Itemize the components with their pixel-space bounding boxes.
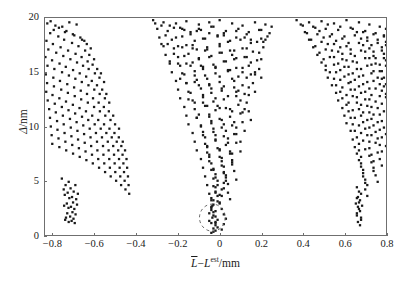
scatter-point <box>204 105 206 107</box>
scatter-point <box>216 226 218 228</box>
scatter-point <box>114 123 116 125</box>
scatter-point <box>210 169 212 171</box>
scatter-point <box>316 54 318 56</box>
scatter-point <box>335 71 337 73</box>
scatter-point <box>200 87 202 89</box>
scatter-point <box>377 137 379 139</box>
scatter-point <box>169 60 171 62</box>
scatter-point <box>85 75 87 77</box>
scatter-point <box>177 45 179 47</box>
scatter-point <box>56 120 58 122</box>
scatter-point <box>225 176 227 178</box>
scatter-point <box>339 26 341 28</box>
scatter-point <box>59 46 61 48</box>
scatter-point <box>202 134 204 136</box>
scatter-point <box>308 21 310 23</box>
scatter-point <box>198 23 200 25</box>
scatter-point <box>229 198 231 200</box>
scatter-point <box>350 88 352 90</box>
scatter-point <box>62 55 64 57</box>
scatter-point <box>91 115 93 117</box>
scatter-point <box>381 46 383 48</box>
scatter-point <box>121 154 123 156</box>
scatter-point <box>202 66 204 68</box>
scatter-point <box>51 134 53 136</box>
scatter-point <box>91 80 93 82</box>
scatter-point <box>231 159 233 161</box>
scatter-point <box>243 36 245 38</box>
scatter-point <box>124 149 126 151</box>
scatter-point <box>241 111 243 113</box>
scatter-point <box>374 32 376 34</box>
scatter-point <box>221 188 223 190</box>
scatter-point <box>370 72 372 74</box>
scatter-point <box>214 97 216 99</box>
scatter-point <box>383 110 385 112</box>
scatter-point <box>246 56 248 58</box>
scatter-point <box>164 34 166 36</box>
scatter-series-center-cone <box>152 19 273 234</box>
scatter-point <box>204 143 206 145</box>
scatter-point <box>362 172 364 174</box>
scatter-point <box>233 133 235 135</box>
scatter-point <box>63 205 65 207</box>
scatter-point <box>233 170 235 172</box>
scatter-point <box>362 111 364 113</box>
scatter-point <box>356 96 358 98</box>
scatter-point <box>248 94 250 96</box>
scatter-point <box>246 101 248 103</box>
scatter-point <box>177 56 179 58</box>
scatter-point <box>191 61 193 63</box>
scatter-point <box>225 60 227 62</box>
scatter-point <box>112 115 114 117</box>
scatter-point <box>210 122 212 124</box>
scatter-point <box>67 192 69 194</box>
scatter-point <box>45 56 47 58</box>
scatter-point <box>385 65 386 67</box>
scatter-point <box>350 117 352 119</box>
scatter-point <box>260 37 262 39</box>
scatter-point <box>379 144 381 146</box>
scatter-point <box>200 124 202 126</box>
scatter-point <box>329 56 331 58</box>
scatter-point <box>385 41 386 43</box>
scatter-point <box>231 54 233 56</box>
scatter-point <box>347 42 349 44</box>
scatter-point <box>206 46 208 48</box>
scatter-point <box>374 62 376 64</box>
scatter-point <box>368 57 370 59</box>
scatter-point <box>231 110 233 112</box>
scatter-point <box>358 190 360 192</box>
scatter-point <box>214 173 216 175</box>
scatter-point <box>200 158 202 160</box>
scatter-point <box>214 186 216 188</box>
scatter-point <box>167 43 169 45</box>
scatter-point <box>381 103 383 105</box>
scatter-point <box>235 133 237 135</box>
scatter-point <box>361 205 363 207</box>
scatter-point <box>385 145 386 147</box>
scatter-point <box>355 202 357 204</box>
scatter-point <box>189 92 191 94</box>
scatter-point <box>61 177 63 179</box>
scatter-point <box>227 41 229 43</box>
scatter-point <box>212 199 214 201</box>
scatter-point <box>63 39 65 41</box>
scatter-point <box>360 162 362 164</box>
scatter-point <box>229 150 231 152</box>
x-tick-label: 0.8 <box>380 238 393 249</box>
scatter-point <box>169 24 171 26</box>
scatter-point <box>306 32 308 34</box>
scatter-point <box>118 158 120 160</box>
scatter-point <box>383 53 385 55</box>
scatter-point <box>243 130 245 132</box>
scatter-point <box>327 43 329 45</box>
scatter-point <box>372 80 374 82</box>
scatter-point <box>185 82 187 84</box>
scatter-point <box>260 77 262 79</box>
scatter-point <box>154 22 156 24</box>
scatter-point <box>214 109 216 111</box>
scatter-point <box>223 166 225 168</box>
scatter-point <box>60 88 62 90</box>
scatter-point <box>104 115 106 117</box>
